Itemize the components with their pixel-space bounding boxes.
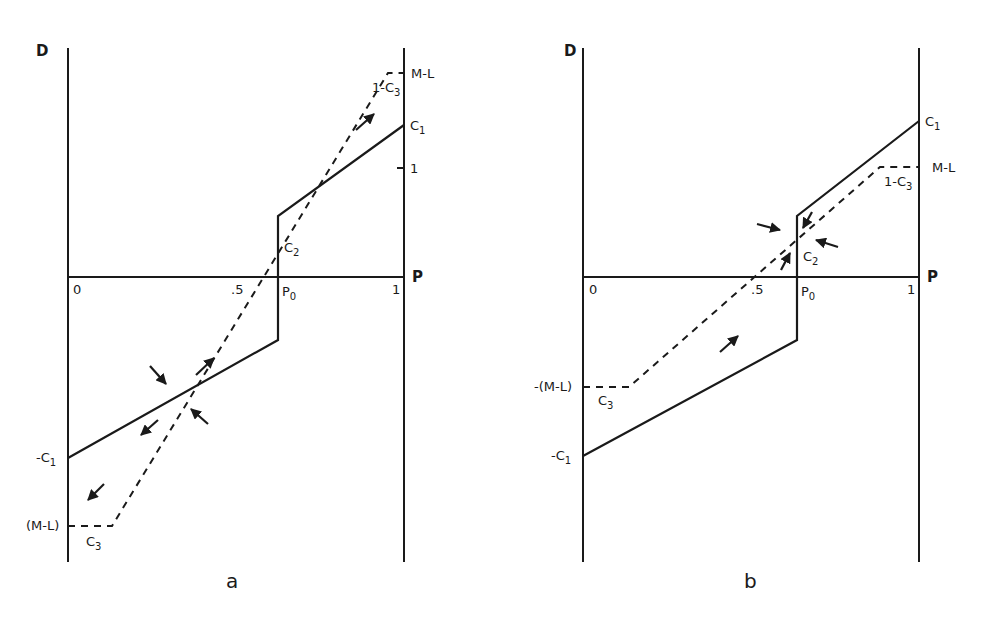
diagram-canvas: D P 0 .5 P0 1 M-L 1-C3 C1 1 C2 -C1 (M-L)… (0, 0, 984, 619)
label-one-minus-c3: 1-C3 (884, 174, 912, 192)
dashed-curve (68, 73, 404, 526)
label-c2: C2 (284, 240, 299, 258)
panel-a: D P 0 .5 P0 1 M-L 1-C3 C1 1 C2 -C1 (M-L)… (26, 42, 435, 593)
label-neg-m-minus-l: -(M-L) (534, 379, 572, 394)
y-axis-label: D (36, 42, 48, 60)
label-m-minus-l: M-L (932, 160, 956, 175)
x-axis-label: P (927, 268, 938, 286)
label-c3: C3 (598, 393, 613, 411)
caption-a: a (226, 569, 238, 593)
arrow-icon (150, 366, 166, 384)
arrow-icon (356, 114, 374, 130)
label-neg-c1: -C1 (36, 450, 56, 468)
tick-0: 0 (589, 282, 597, 297)
tick-half: .5 (751, 282, 763, 297)
tick-p0: P0 (801, 284, 815, 302)
tick-p0: P0 (282, 284, 296, 302)
y-axis-label: D (564, 42, 576, 60)
panel-b: D P 0 .5 P0 1 C1 M-L 1-C3 C2 -(M-L) C3 -… (534, 42, 956, 593)
arrow-icon (816, 240, 838, 247)
tick-0: 0 (73, 282, 81, 297)
caption-b: b (744, 569, 757, 593)
x-axis-label: P (412, 268, 423, 286)
tick-1: 1 (392, 282, 400, 297)
label-one: 1 (410, 161, 418, 176)
tick-half: .5 (231, 282, 243, 297)
label-one-minus-c3: 1-C3 (372, 80, 400, 98)
label-c1: C1 (925, 114, 940, 132)
arrow-icon (781, 253, 790, 270)
label-neg-c1: -C1 (551, 448, 571, 466)
arrow-icon (803, 212, 812, 228)
label-m-minus-l: M-L (411, 66, 435, 81)
arrow-icon (720, 336, 738, 352)
label-c3: C3 (86, 534, 101, 552)
label-neg-m-minus-l: (M-L) (26, 518, 59, 533)
arrow-icon (88, 484, 104, 500)
arrow-icon (757, 224, 780, 230)
arrow-icon (191, 409, 208, 424)
arrow-icon (141, 420, 158, 435)
tick-1: 1 (907, 282, 915, 297)
label-c1: C1 (410, 118, 425, 136)
label-c2: C2 (803, 249, 818, 267)
